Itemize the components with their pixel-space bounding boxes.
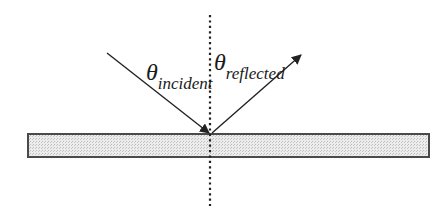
incident-subscript: incident	[158, 74, 213, 93]
reflected-subscript: reflected	[226, 64, 285, 83]
theta-incident-label: θincident	[146, 60, 213, 84]
reflection-diagram: θincident θreflected	[0, 0, 448, 216]
theta-symbol: θ	[214, 49, 226, 75]
theta-symbol: θ	[146, 59, 158, 85]
reflecting-surface	[28, 134, 429, 157]
diagram-canvas	[0, 0, 448, 216]
theta-reflected-label: θreflected	[214, 50, 285, 74]
